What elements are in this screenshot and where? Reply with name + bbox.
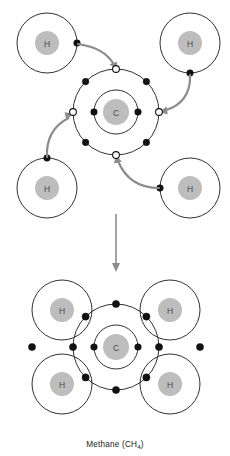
outer-electron-sw-top: [82, 139, 89, 146]
methane-hydrogen-bottom-left: H: [32, 354, 92, 414]
h-label-top-right-bottom-panel: H: [167, 306, 173, 316]
methane-hydrogen-top-left: H: [32, 280, 92, 340]
hydrogen-top-left: H: [17, 13, 80, 73]
vacancy-west: [70, 109, 77, 116]
methane-hydrogen-bottom-right: H: [140, 354, 200, 414]
arrow-from-bottom-left-h: [47, 118, 69, 157]
h-label-bottom-left-bottom-panel: H: [59, 380, 65, 390]
inner-electron-west-bottom: [91, 344, 98, 351]
process-arrow-head: [112, 263, 120, 272]
bond-pair-se-carbon: [143, 374, 150, 381]
caption-text: Methane (CH: [86, 440, 137, 449]
carbon-label-top: C: [113, 108, 119, 118]
h-electron-far-east: [196, 343, 203, 350]
shared-electron-south: [112, 386, 119, 393]
methane-diagram-canvas: H H H H: [0, 0, 230, 456]
inner-electron-east-top: [135, 109, 142, 116]
h-electron-far-west: [28, 343, 35, 350]
h-label-top-left: H: [44, 39, 50, 49]
shared-electron-west: [69, 343, 76, 350]
vacancy-east: [156, 109, 163, 116]
inner-electron-west-top: [91, 109, 98, 116]
downward-process-arrow: [112, 214, 120, 272]
caption-suffix: ): [141, 440, 144, 449]
bond-pair-ne-carbon: [143, 313, 150, 320]
hydrogen-top-right: H: [160, 13, 220, 76]
carbon-atom-top: C: [70, 66, 163, 159]
vacancy-north: [113, 66, 120, 73]
h-label-bottom-right-bottom-panel: H: [167, 380, 173, 390]
arrow-from-bottom-right-h: [118, 161, 159, 188]
arrow-from-top-left-h: [78, 44, 114, 64]
h-label-bottom-left: H: [44, 184, 50, 194]
bond-pair-nw-carbon: [82, 313, 89, 320]
outer-electron-se-top: [143, 139, 150, 146]
inner-electron-east-bottom: [135, 344, 142, 351]
carbon-atom-bottom: C: [69, 300, 162, 393]
bond-pair-sw-carbon: [82, 374, 89, 381]
bottom-panel-group: H H H H C: [28, 280, 203, 414]
h-label-top-left-bottom-panel: H: [59, 306, 65, 316]
arrow-from-top-right-h: [166, 75, 190, 110]
hydrogen-bottom-left: H: [17, 155, 77, 218]
caption-subscript: 4: [137, 443, 141, 450]
carbon-label-bottom: C: [113, 343, 119, 353]
vacancy-south: [113, 152, 120, 159]
figure-caption: Methane (CH4): [0, 440, 230, 449]
top-panel-group: H H H H: [17, 13, 220, 218]
hydrogen-bottom-right: H: [157, 158, 220, 218]
outer-electron-nw-top: [82, 78, 89, 85]
shared-electron-east: [155, 343, 162, 350]
methane-bonding-figure: H H H H: [0, 0, 230, 456]
shared-electron-north: [112, 300, 119, 307]
h-label-top-right: H: [187, 39, 193, 49]
h-label-bottom-right: H: [187, 184, 193, 194]
methane-hydrogen-top-right: H: [140, 280, 200, 340]
outer-electron-ne-top: [143, 78, 150, 85]
